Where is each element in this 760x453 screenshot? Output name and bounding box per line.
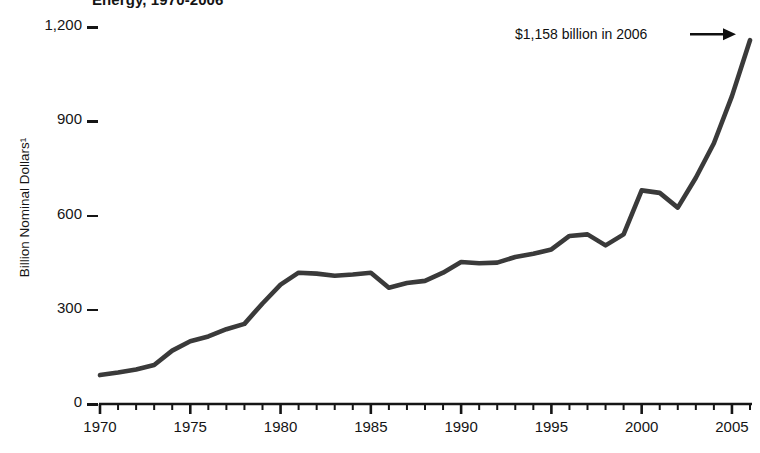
y-tick-label: 1,200 [12,16,82,33]
y-tick-label: 900 [12,110,82,127]
x-tick-label: 2000 [602,418,682,435]
x-tick-label: 1995 [511,418,591,435]
x-tick-label: 1975 [150,418,230,435]
x-tick-label: 1980 [241,418,321,435]
x-tick-label: 1970 [60,418,140,435]
value-annotation-label: $1,158 billion in 2006 [515,26,647,42]
y-tick-mark [87,215,98,218]
y-tick-mark [87,26,98,29]
annotation-arrow-icon [690,28,736,40]
plot-area [0,0,760,453]
y-tick-mark [87,403,98,406]
y-tick-mark [87,120,98,123]
data-series-line [100,40,750,375]
x-tick-label: 1990 [421,418,501,435]
y-tick-label: 300 [12,299,82,316]
x-tick-label: 2005 [692,418,760,435]
chart-title: Energy, 1970-2006 [92,0,224,8]
y-tick-label: 0 [12,393,82,410]
y-tick-mark [87,309,98,312]
chart-container: Energy, 1970-2006 Billion Nominal Dollar… [0,0,760,453]
x-tick-label: 1985 [331,418,411,435]
y-tick-label: 600 [12,205,82,222]
x-tick-marks [100,404,750,414]
